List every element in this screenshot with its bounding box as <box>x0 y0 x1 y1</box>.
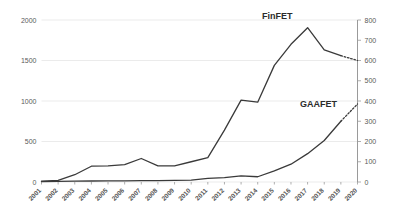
x-axis-tick-label: 2014 <box>243 186 258 201</box>
right-axis-tick-label: 300 <box>365 118 377 125</box>
x-axis-tick-label: 2013 <box>227 186 242 201</box>
x-axis-tick-label: 2009 <box>160 186 175 201</box>
right-axis-tick-label: 0 <box>365 179 369 186</box>
x-axis-tick-label: 2001 <box>27 186 42 201</box>
right-axis-tick-label: 800 <box>365 17 377 24</box>
x-axis-tick-label: 2004 <box>77 186 92 201</box>
left-axis-tick-label: 0 <box>33 179 37 186</box>
chart-container: 0500100015002000 01002003004005006007008… <box>0 0 399 214</box>
series-label-finfet: FinFET <box>262 11 293 21</box>
x-axis-tick-label: 2006 <box>110 186 125 201</box>
left-axis-tick-labels: 0500100015002000 <box>21 17 37 186</box>
x-axis-tick-label: 2019 <box>326 186 341 201</box>
series-line-gaafet <box>42 121 341 181</box>
x-axis-tick-label: 2015 <box>260 186 275 201</box>
right-axis-tick-labels: 0100200300400500600700800 <box>365 17 377 186</box>
right-axis-tick-label: 600 <box>365 57 377 64</box>
x-axis-tick-label: 2008 <box>143 186 158 201</box>
left-axis-tick-label: 500 <box>25 138 37 145</box>
left-axis-tick-label: 1500 <box>21 57 37 64</box>
x-axis-tick-label: 2010 <box>177 186 192 201</box>
series-line-finfet-projection <box>341 56 358 61</box>
right-axis-tick-label: 700 <box>365 37 377 44</box>
x-axis-tick-label: 2005 <box>94 186 109 201</box>
x-axis-tick-label: 2011 <box>194 186 209 201</box>
x-axis-tick-label: 2017 <box>293 186 308 201</box>
x-axis-tick-marks <box>42 182 358 185</box>
x-axis-tick-label: 2007 <box>127 186 142 201</box>
x-axis-tick-label: 2002 <box>44 186 59 201</box>
series-line-finfet <box>42 28 341 182</box>
series-line-gaafet-projection <box>341 104 358 121</box>
right-axis-tick-label: 100 <box>365 158 377 165</box>
right-axis-tick-label: 400 <box>365 98 377 105</box>
left-axis-tick-label: 1000 <box>21 98 37 105</box>
right-axis-tick-marks <box>358 20 362 182</box>
series-label-gaafet: GAAFET <box>300 99 338 109</box>
x-axis-tick-label: 2018 <box>310 186 325 201</box>
x-axis-tick-labels: 2001200220032004200520062007200820092010… <box>27 186 358 201</box>
x-axis-tick-label: 2016 <box>277 186 292 201</box>
right-axis-tick-label: 200 <box>365 138 377 145</box>
x-axis-tick-label: 2003 <box>60 186 75 201</box>
x-axis-tick-label: 2012 <box>210 186 225 201</box>
x-axis-tick-label: 2020 <box>343 186 358 201</box>
left-axis-tick-label: 2000 <box>21 17 37 24</box>
line-chart: 0500100015002000 01002003004005006007008… <box>0 0 399 214</box>
right-axis-tick-label: 500 <box>365 77 377 84</box>
